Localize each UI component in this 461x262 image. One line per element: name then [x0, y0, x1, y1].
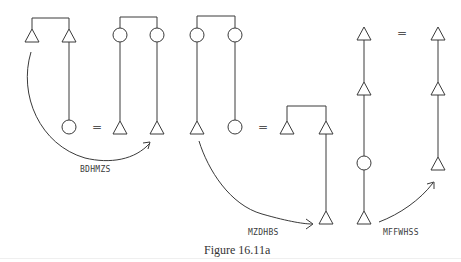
figure-caption: Figure 16.11a	[204, 243, 271, 257]
triangle-icon	[319, 121, 333, 134]
equals-sign: =	[397, 26, 407, 40]
arrowhead-icon	[143, 142, 150, 149]
triangle-icon	[357, 211, 371, 224]
triangle-icon	[431, 82, 445, 95]
diagram-4	[280, 106, 333, 224]
diagram-2	[113, 17, 164, 134]
triangle-icon	[25, 29, 39, 42]
curved-arrow	[199, 141, 312, 224]
circle-icon	[357, 156, 371, 170]
diagram-5	[357, 27, 371, 224]
circle-icon	[228, 28, 242, 42]
triangle-icon	[150, 121, 164, 134]
arrow-label: MZDHBS	[248, 228, 279, 237]
figure-canvas: = = =	[0, 0, 461, 262]
triangle-icon	[431, 157, 445, 170]
equals-sign: =	[92, 120, 102, 134]
triangle-icon	[431, 27, 445, 40]
triangle-icon	[62, 29, 76, 42]
triangle-icon	[319, 211, 333, 224]
diagram-6	[431, 27, 445, 170]
circle-icon	[228, 120, 242, 134]
arrow-mffwhss: MFFWHSS	[379, 182, 434, 237]
curved-arrow	[27, 52, 150, 161]
circle-icon	[62, 120, 76, 134]
curved-arrow	[379, 183, 433, 222]
arrow-bdhmzs: BDHMZS	[27, 52, 150, 174]
bracket	[120, 17, 157, 28]
bracket	[197, 16, 235, 28]
triangle-icon	[357, 82, 371, 95]
diagram-3	[190, 16, 242, 134]
triangle-icon	[113, 121, 127, 134]
equals-sign: =	[258, 120, 268, 134]
bracket	[32, 18, 69, 29]
triangle-icon	[280, 121, 294, 134]
arrow-mzdhbs: MZDHBS	[199, 141, 313, 237]
circle-icon	[150, 28, 164, 42]
arrow-label: BDHMZS	[80, 165, 111, 174]
arrow-label: MFFWHSS	[383, 228, 419, 237]
triangle-icon	[190, 121, 204, 134]
circle-icon	[190, 28, 204, 42]
page-edge	[0, 258, 461, 259]
bracket	[287, 106, 326, 121]
diagram-1	[25, 18, 76, 134]
triangle-icon	[357, 27, 371, 40]
circle-icon	[113, 28, 127, 42]
